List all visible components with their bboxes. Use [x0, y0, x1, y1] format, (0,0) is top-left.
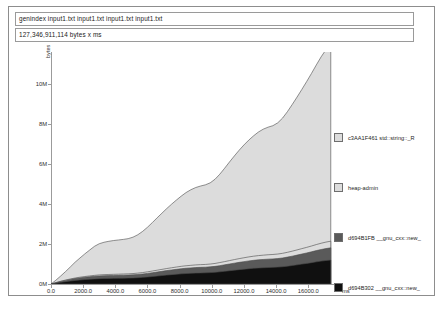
legend-swatch-icon: [334, 283, 343, 292]
x-tick-mark: [212, 285, 213, 288]
legend-label: d694B1FB __gnu_cxx::new_: [348, 235, 421, 241]
x-tick-mark: [147, 285, 148, 288]
legend-label: c3AA1F461 std::string::_R: [348, 135, 415, 141]
x-tick-label: 12000.0: [233, 288, 254, 294]
x-tick-label: 10000.0: [201, 288, 222, 294]
x-tick-mark: [276, 285, 277, 288]
legend-label: heap-admin: [348, 185, 378, 191]
legend-item[interactable]: c3AA1F461 std::string::_R: [334, 133, 415, 142]
y-tick-label: 10M: [36, 81, 47, 87]
legend-label: d694B302 __gnu_cxx::new_: [348, 285, 420, 291]
legend-item[interactable]: d694B302 __gnu_cxx::new_: [334, 283, 420, 292]
x-tick-label: 14000.0: [266, 288, 287, 294]
x-tick-label: 0.0: [47, 288, 55, 294]
x-tick-label: 4000.0: [106, 288, 124, 294]
x-tick-label: 2000.0: [74, 288, 92, 294]
command-line-field[interactable]: genindex input1.txt input1.txt input1.tx…: [15, 12, 414, 26]
x-tick-mark: [244, 285, 245, 288]
y-tick-label: 6M: [39, 161, 47, 167]
header-block: genindex input1.txt input1.txt input1.tx…: [15, 12, 414, 42]
total-cost-field[interactable]: 127,346,911,114 bytes x ms: [15, 28, 414, 42]
series-area: [51, 52, 331, 284]
y-tick-label: 0M: [39, 281, 47, 287]
legend-item[interactable]: d694B1FB __gnu_cxx::new_: [334, 233, 421, 242]
axes: bytes 0M2M4M6M8M10M 0.02000.04000.06000.…: [51, 52, 334, 284]
y-tick-label: 8M: [39, 121, 47, 127]
x-tick-label: 16000.0: [298, 288, 319, 294]
legend-item[interactable]: heap-admin: [334, 183, 378, 192]
x-tick-mark: [51, 285, 52, 288]
stacked-area-series: [51, 52, 334, 284]
y-tick-label: 2M: [39, 241, 47, 247]
x-tick-mark: [115, 285, 116, 288]
x-axis-line: [51, 284, 334, 285]
x-tick-label: 6000.0: [139, 288, 157, 294]
y-tick-label: 4M: [39, 201, 47, 207]
x-tick-label: 8000.0: [171, 288, 189, 294]
plot-area: bytes 0M2M4M6M8M10M 0.02000.04000.06000.…: [29, 47, 427, 293]
legend-swatch-icon: [334, 183, 343, 192]
x-tick-mark: [83, 285, 84, 288]
legend-swatch-icon: [334, 133, 343, 142]
x-tick-mark: [180, 285, 181, 288]
profiler-window: genindex input1.txt input1.txt input1.tx…: [8, 6, 435, 296]
legend-swatch-icon: [334, 233, 343, 242]
x-tick-mark: [308, 285, 309, 288]
